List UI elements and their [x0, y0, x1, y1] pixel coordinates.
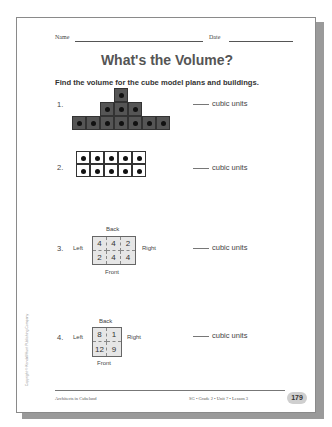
plan-cell: 2 — [121, 237, 135, 251]
plan-cell: 4 — [93, 237, 107, 251]
name-field[interactable] — [75, 41, 203, 42]
plan-cell: 8 — [93, 328, 107, 342]
worksheet-page: Name Date What's the Volume? Find the vo… — [16, 17, 316, 413]
problem-3-answer[interactable]: cubic units — [193, 243, 247, 252]
problem-1-number: 1. — [57, 100, 63, 109]
label-right: Right — [142, 245, 156, 251]
answer-blank[interactable] — [193, 248, 209, 249]
answer-blank[interactable] — [193, 168, 209, 169]
date-label: Date — [209, 34, 220, 40]
plan-cell: 4 — [107, 251, 121, 265]
problem-1-cube-building — [72, 88, 182, 138]
instructions: Find the volume for the cube model plans… — [55, 78, 259, 87]
problem-4-plan-grid: 8 1 12 9 — [92, 327, 122, 357]
problem-4-answer[interactable]: cubic units — [193, 331, 247, 340]
plan-cell: 4 — [107, 237, 121, 251]
problem-3-plan-grid: 4 4 2 2 4 4 — [92, 236, 136, 265]
problem-4-number: 4. — [57, 333, 63, 342]
plan-cell: 9 — [107, 342, 121, 356]
problem-1-answer[interactable]: cubic units — [193, 99, 247, 108]
footer-divider — [55, 390, 285, 391]
copyright-notice: Copyright © Kendall/Hunt Publishing Comp… — [25, 290, 29, 410]
name-date-row: Name — [55, 34, 69, 40]
page-number-badge: 179 — [287, 392, 307, 404]
plan-cell: 2 — [93, 251, 107, 265]
label-left: Left — [73, 334, 83, 340]
date-field[interactable] — [229, 41, 293, 42]
plan-cell: 12 — [93, 342, 107, 356]
label-right: Right — [127, 334, 141, 340]
label-front: Front — [105, 269, 119, 275]
problem-2-cube-block — [76, 151, 152, 179]
problem-2-number: 2. — [57, 163, 63, 172]
page-title: What's the Volume? — [17, 52, 317, 68]
plan-cell: 1 — [107, 328, 121, 342]
footer-left: Architects in Cubeland — [55, 396, 97, 401]
label-front: Front — [97, 360, 111, 366]
footer-right: SG • Grade 2 • Unit 7 • Lesson 3 — [189, 396, 248, 401]
answer-blank[interactable] — [193, 104, 209, 105]
name-label: Name — [55, 34, 69, 40]
problem-2-answer[interactable]: cubic units — [193, 163, 247, 172]
label-left: Left — [73, 245, 83, 251]
label-back: Back — [99, 318, 112, 324]
label-back: Back — [106, 226, 119, 232]
problem-3-number: 3. — [57, 244, 63, 253]
answer-blank[interactable] — [193, 336, 209, 337]
plan-cell: 4 — [121, 251, 135, 265]
